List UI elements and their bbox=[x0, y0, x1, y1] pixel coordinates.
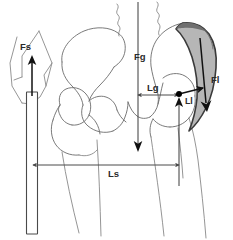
hip-joint-center-marker bbox=[176, 91, 182, 97]
label-fl: Fl bbox=[211, 74, 219, 85]
label-ll: Ll bbox=[185, 96, 193, 106]
label-lg: Lg bbox=[147, 82, 159, 93]
cane-rod bbox=[27, 92, 38, 234]
pelvis-bone-outline bbox=[62, 23, 203, 133]
label-ls: Ls bbox=[108, 168, 119, 179]
dimension-ll bbox=[175, 97, 183, 186]
left-femur-outline bbox=[51, 88, 101, 236]
label-fg: Fg bbox=[134, 51, 146, 62]
force-fg-group bbox=[134, 2, 143, 152]
hip-biomechanics-diagram: Fs Fg Lg Fl Ll Ls bbox=[0, 0, 233, 240]
diagram-canvas: Fs Fg Lg Fl Ll Ls bbox=[0, 0, 233, 240]
force-fs-group bbox=[28, 55, 37, 96]
label-fs: Fs bbox=[20, 41, 31, 52]
